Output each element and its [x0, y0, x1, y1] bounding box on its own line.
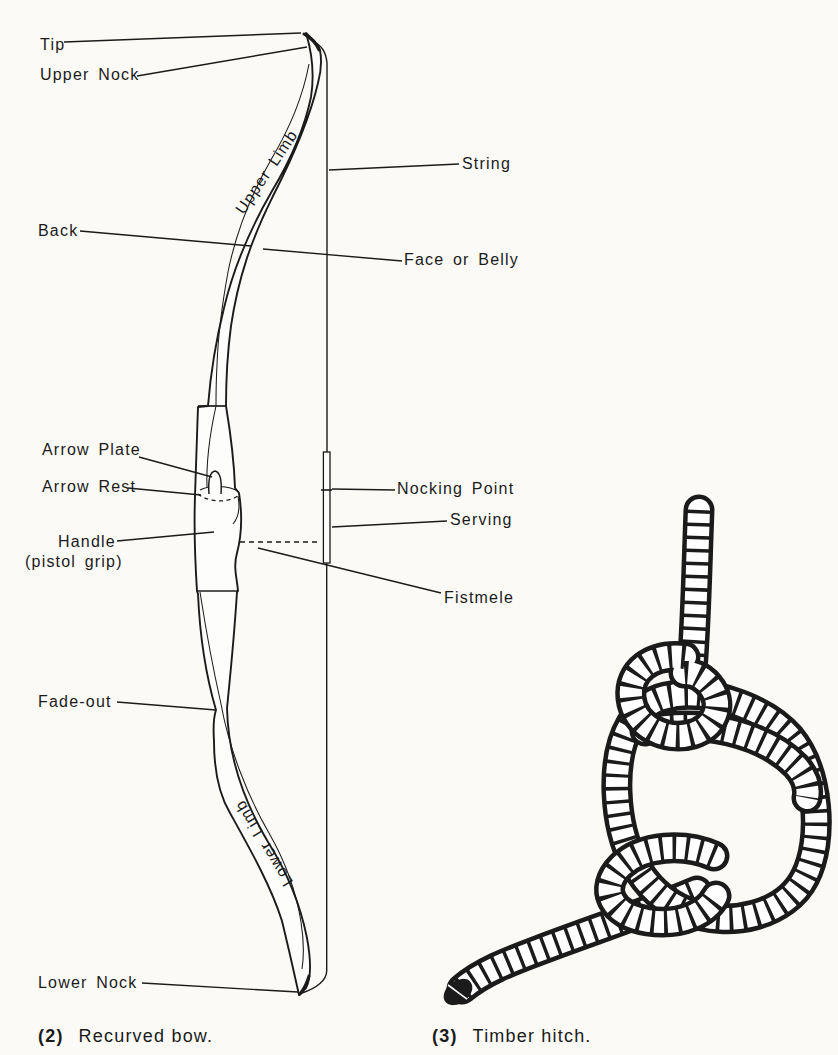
- caption-timber-hitch: (3)Timber hitch.: [432, 1026, 592, 1047]
- label-fade-out: Fade-out: [38, 693, 112, 711]
- label-handle-sub: (pistol grip): [25, 553, 123, 571]
- label-nocking-point: Nocking Point: [397, 480, 514, 498]
- serving-wrap: [323, 452, 330, 563]
- label-handle: Handle: [58, 533, 116, 551]
- back-leader: [80, 231, 251, 246]
- arrow-rest-leader: [128, 488, 201, 495]
- arrow-plate-shape: [209, 471, 222, 494]
- upper-nock-leader: [137, 47, 307, 76]
- face-or-belly-leader: [263, 249, 402, 261]
- label-arrow-rest: Arrow Rest: [42, 478, 136, 496]
- tip-leader: [64, 33, 301, 42]
- label-lower-nock: Lower Nock: [38, 974, 137, 992]
- caption-timber-hitch-text: Timber hitch.: [473, 1026, 592, 1046]
- bowstring: [302, 41, 332, 993]
- caption-recurved-bow-text: Recurved bow.: [79, 1026, 214, 1046]
- label-tip: Tip: [40, 36, 65, 54]
- book-page: Tip Upper Nock Upper Limb Back String Fa…: [0, 0, 838, 1055]
- lower-nock-leader: [142, 983, 298, 992]
- label-arrow-plate: Arrow Plate: [42, 441, 141, 459]
- label-string: String: [462, 155, 511, 173]
- caption-recurved-bow: (2)Recurved bow.: [38, 1026, 213, 1047]
- fistmele-leader: [258, 548, 441, 593]
- label-back: Back: [38, 222, 78, 240]
- string-leader: [329, 164, 459, 170]
- string-upper: [313, 41, 327, 452]
- caption-timber-hitch-number: (3): [432, 1026, 458, 1046]
- label-face-or-belly: Face or Belly: [404, 251, 519, 269]
- serving-leader: [332, 521, 447, 527]
- upper-limb-lamination-line: [216, 64, 309, 406]
- label-fistmele: Fistmele: [444, 589, 514, 607]
- label-serving: Serving: [450, 511, 513, 529]
- timber-hitch-rope: [439, 510, 817, 1011]
- caption-recurved-bow-number: (2): [38, 1026, 64, 1046]
- diagram-canvas: [0, 0, 838, 1055]
- fade-out-leader: [117, 702, 216, 710]
- nocking-point-leader: [332, 489, 395, 490]
- label-upper-nock: Upper Nock: [40, 66, 139, 84]
